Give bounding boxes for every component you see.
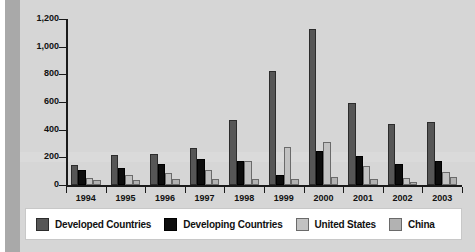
legend-swatch-icon [36,218,49,231]
bar-1994-united-states [86,178,93,185]
legend-label: Developing Countries [183,219,282,230]
legend-item-developed-countries[interactable]: Developed Countries [36,218,151,231]
x-axis-tick-label-2000: 2000 [304,193,344,203]
bar-1994-china [93,180,100,185]
bar-2001-china [370,179,377,185]
legend-item-united-states[interactable]: United States [296,218,376,231]
bar-2003-united-states [442,172,449,185]
legend-swatch-icon [164,218,177,231]
x-axis-tick [66,187,67,193]
bar-1995-china [133,180,140,185]
bar-1996-developing-countries [158,164,165,185]
bar-2003-china [450,177,457,185]
bar-1994-developed-countries [71,165,78,185]
x-axis-tick-label-2001: 2001 [343,193,383,203]
bar-2001-developed-countries [348,103,355,185]
chart-legend: Developed CountriesDeveloping CountriesU… [25,208,462,240]
x-axis-tick-label-2002: 2002 [383,193,423,203]
bar-1996-united-states [165,173,172,185]
bar-1996-developed-countries [150,154,157,185]
bar-1994-developing-countries [78,170,85,185]
bar-1998-china [252,179,259,185]
bar-2002-developed-countries [388,124,395,185]
bars-layer [0,0,475,186]
bar-2001-united-states [363,166,370,185]
x-axis-tick-label-1995: 1995 [106,193,146,203]
bar-1999-united-states [284,147,291,185]
x-axis-tick [462,187,463,193]
bar-2002-developing-countries [395,164,402,185]
bar-1999-china [291,179,298,185]
bar-2000-united-states [323,142,330,185]
bar-1997-developed-countries [190,148,197,185]
x-axis-tick-label-1997: 1997 [185,193,225,203]
legend-label: Developed Countries [55,219,151,230]
legend-label: China [408,219,435,230]
bar-1996-china [172,179,179,185]
legend-item-developing-countries[interactable]: Developing Countries [164,218,282,231]
bar-1998-developed-countries [229,120,236,185]
x-axis-tick-label-1998: 1998 [224,193,264,203]
legend-item-china[interactable]: China [389,218,435,231]
bar-2000-developed-countries [309,29,316,185]
bar-1995-developing-countries [118,168,125,185]
bar-2003-developed-countries [427,122,434,185]
bar-1999-developing-countries [276,175,283,185]
legend-swatch-icon [389,218,402,231]
bar-2002-china [410,182,417,185]
bar-1995-united-states [125,175,132,185]
bar-1997-united-states [205,170,212,185]
x-axis-tick-label-1999: 1999 [264,193,304,203]
x-axis-tick-label-2003: 2003 [422,193,462,203]
bar-1997-developing-countries [197,159,204,185]
legend-label: United States [315,219,376,230]
bar-2000-developing-countries [316,151,323,185]
bar-2003-developing-countries [435,161,442,185]
bar-1997-china [212,179,219,185]
chart-figure: 02004006008001,0001,200 1994199519961997… [0,0,475,252]
bar-1995-developed-countries [111,155,118,185]
bar-1998-developing-countries [237,161,244,185]
x-axis-tick-label-1994: 1994 [66,193,106,203]
bar-1999-developed-countries [269,71,276,185]
legend-swatch-icon [296,218,309,231]
bar-1998-united-states [244,161,251,185]
x-axis-tick-label-1996: 1996 [145,193,185,203]
bar-2002-united-states [403,178,410,185]
bar-2000-china [331,177,338,185]
bar-2001-developing-countries [356,156,363,185]
